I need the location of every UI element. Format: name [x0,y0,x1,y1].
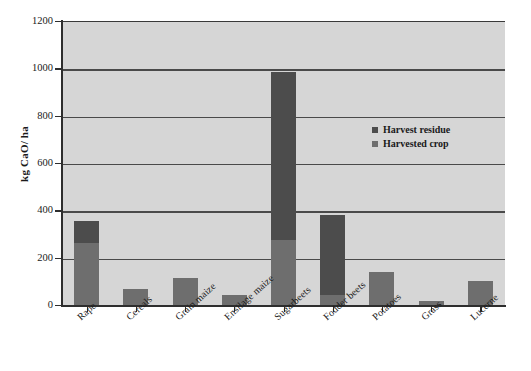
bar-segment-harvest-residue [271,72,296,240]
bar-segment-harvest-residue [320,215,345,295]
legend-item: Harvest residue [372,123,450,137]
bar [271,72,296,306]
gridline [62,69,505,70]
plot-area: Harvest residueHarvested crop [62,21,505,306]
bar-segment-harvested-crop [74,243,99,306]
bar [320,215,345,306]
legend-label: Harvest residue [383,125,450,135]
bar-segment-harvest-residue [74,221,99,243]
y-axis-line [61,20,63,306]
legend-item: Harvested crop [372,137,450,151]
y-axis-tick-label: 1200 [0,16,53,27]
legend-swatch-icon [372,141,378,147]
y-axis-tick-label: 0 [0,300,53,311]
y-axis-tick-label: 1000 [0,63,53,74]
legend: Harvest residueHarvested crop [372,123,450,151]
y-axis-tick-label: 400 [0,205,53,216]
y-axis-ticks: 020040060080010001200 [0,0,53,371]
y-axis-tick-label: 600 [0,158,53,169]
legend-label: Harvested crop [383,139,449,149]
y-axis-tick-label: 200 [0,253,53,264]
y-axis-tick-label: 800 [0,111,53,122]
bar-chart: kg CaO/ ha 020040060080010001200 Harvest… [0,0,531,371]
bar [74,221,99,306]
legend-swatch-icon [372,127,378,133]
